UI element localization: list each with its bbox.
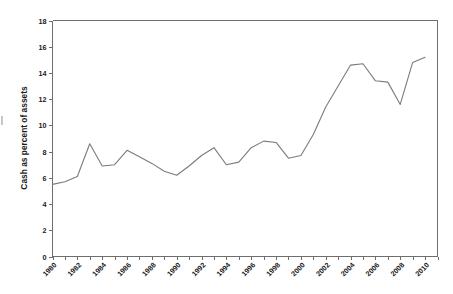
x-tick-label: 2000 <box>289 261 307 279</box>
x-tick-label: 2010 <box>413 261 431 279</box>
y-tick-label: 12 <box>39 95 47 104</box>
x-tick-label: 1988 <box>140 261 158 279</box>
line-chart: Cash as percent of assets 02468101214161… <box>0 0 453 294</box>
y-tick-label: 16 <box>39 43 47 52</box>
y-tick-label: 8 <box>43 148 47 157</box>
y-axis-title: Cash as percent of assets <box>19 86 29 190</box>
edge-artifact-mark <box>1 116 3 125</box>
y-tick-label: 14 <box>39 69 47 78</box>
x-tick-label: 2006 <box>364 261 382 279</box>
chart-figure: Cash as percent of assets 02468101214161… <box>0 0 453 294</box>
plot-axes <box>53 21 438 257</box>
x-tick-label: 1980 <box>41 261 59 279</box>
y-tick-label: 6 <box>43 174 47 183</box>
x-tick-label: 1998 <box>264 261 282 279</box>
y-tick-label: 4 <box>43 200 47 209</box>
x-tick-label: 2008 <box>388 261 406 279</box>
y-axis-title-text: Cash as percent of assets <box>19 86 29 190</box>
y-tick-label: 18 <box>39 17 47 26</box>
x-tick-label: 2004 <box>339 261 357 279</box>
x-tick-label: 1990 <box>165 261 183 279</box>
x-axis-ticks <box>54 257 439 261</box>
y-axis-ticks: 024681012141618 <box>39 17 53 262</box>
x-tick-label: 1992 <box>190 261 208 279</box>
x-tick-label: 1984 <box>90 261 108 279</box>
y-tick-label: 10 <box>39 121 47 130</box>
x-axis-tick-labels: 1980198219841986198819901992199419961998… <box>41 261 431 279</box>
y-tick-label: 0 <box>43 253 47 262</box>
x-tick-label: 1994 <box>215 261 233 279</box>
x-tick-label: 2002 <box>314 261 332 279</box>
x-tick-label: 1982 <box>66 261 84 279</box>
data-series-line <box>53 57 426 184</box>
y-tick-label: 2 <box>43 226 47 235</box>
x-tick-label: 1986 <box>115 261 133 279</box>
x-tick-label: 1996 <box>239 261 257 279</box>
